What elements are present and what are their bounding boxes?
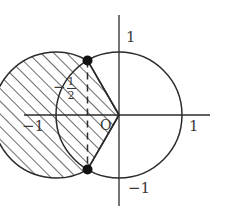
one-half-fraction: 1 2 [67,76,76,101]
upper-marked-point [83,55,93,65]
y-axis-bottom-label: −1 [128,181,150,196]
x-axis-left-label: −1 [22,119,44,134]
neg-half-label: − 1 2 [53,76,76,101]
unit-circle-diagram [0,0,231,220]
neg-half-minus-sign: − [53,80,66,95]
figure-root: 1 −1 1 −1 O − 1 2 [0,0,231,220]
y-axis-top-label: 1 [126,30,136,45]
origin-label: O [100,118,111,132]
fraction-numerator: 1 [67,76,76,88]
fraction-denominator: 2 [67,89,76,101]
x-axis-right-label: 1 [189,119,199,134]
lower-marked-point [83,165,93,175]
